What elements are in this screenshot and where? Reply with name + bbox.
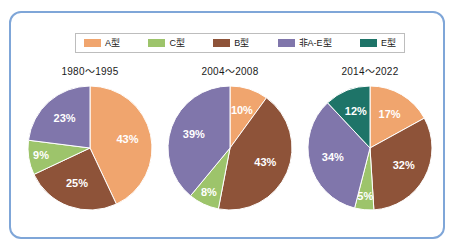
pie-chart-group: 1980～1995 43%25%9%23% 2004～2008 10%43%8%… <box>11 61 447 239</box>
legend-label-0: A型 <box>105 39 120 48</box>
legend-swatch-icon-4 <box>360 39 377 47</box>
pie-slice-label: 34% <box>322 151 344 163</box>
pie-slice-label: 43% <box>116 133 138 145</box>
pie-title-2: 2014～2022 <box>299 63 441 78</box>
legend-swatch-icon-3 <box>278 39 295 47</box>
legend-item-3: 非A-E型 <box>278 39 332 48</box>
legend-label-3: 非A-E型 <box>299 39 332 48</box>
pie-title-0: 1980～1995 <box>19 63 161 78</box>
legend-item-0: A型 <box>84 39 120 48</box>
pie-chart-0: 1980～1995 43%25%9%23% <box>19 61 161 239</box>
pie-slice-label: 23% <box>54 112 76 124</box>
pie-slice-label: 32% <box>393 159 415 171</box>
chart-panel: A型 C型 B型 非A-E型 E型 1980～1995 43%25%9 <box>9 11 445 239</box>
pie-chart-1: 2004～2008 10%43%8%39% <box>159 61 301 239</box>
pie-slice-label: 12% <box>345 105 367 117</box>
figure-root: A型 C型 B型 非A-E型 E型 1980～1995 43%25%9 <box>0 0 460 246</box>
legend-item-4: E型 <box>360 39 396 48</box>
pie-svg-0: 43%25%9%23% <box>19 80 161 232</box>
pie-svg-2: 17%32%5%34%12% <box>299 80 441 232</box>
pie-slice-label: 9% <box>33 149 49 161</box>
legend-item-2: B型 <box>213 39 249 48</box>
pie-chart-2: 2014～2022 17%32%5%34%12% <box>299 61 441 239</box>
pie-slice-label: 5% <box>357 190 373 202</box>
pie-svg-1: 10%43%8%39% <box>159 80 301 232</box>
chart-legend: A型 C型 B型 非A-E型 E型 <box>75 33 405 53</box>
legend-swatch-icon-0 <box>84 39 101 47</box>
pie-slice-label: 10% <box>231 104 253 116</box>
pie-slice-label: 39% <box>183 128 205 140</box>
legend-item-1: C型 <box>148 39 185 48</box>
pie-title-1: 2004～2008 <box>159 63 301 78</box>
legend-label-1: C型 <box>169 39 185 48</box>
pie-slice-label: 25% <box>66 177 88 189</box>
legend-swatch-icon-2 <box>213 39 230 47</box>
pie-slice-label: 8% <box>201 186 217 198</box>
pie-slice-label: 17% <box>379 108 401 120</box>
legend-label-2: B型 <box>234 39 249 48</box>
legend-label-4: E型 <box>381 39 396 48</box>
pie-slice-label: 43% <box>254 156 276 168</box>
legend-swatch-icon-1 <box>148 39 165 47</box>
